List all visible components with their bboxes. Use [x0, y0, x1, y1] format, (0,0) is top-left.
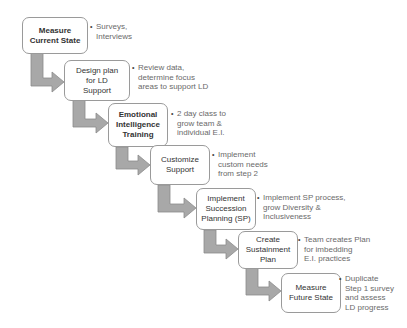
step-label-line: Future State [289, 293, 333, 302]
bullet-icon: • [212, 150, 214, 160]
note-line: Interviews [96, 32, 132, 42]
note-line: LD progress [345, 303, 394, 313]
note-line: from step 2 [218, 169, 268, 179]
bent-arrow-icon [204, 230, 238, 259]
step-measure-future-state: MeasureFuture State [281, 273, 341, 313]
bullet-icon: • [90, 22, 92, 32]
step-label-line: Customize [161, 155, 199, 164]
note-line: Surveys, [96, 22, 132, 32]
note-line: Implement SP process, [263, 193, 346, 203]
step-label-line: Planning (SP) [201, 214, 250, 223]
bullet-icon: • [298, 235, 300, 245]
step-label-line: Plan [260, 255, 276, 264]
note-line: and assess [345, 293, 394, 303]
bent-arrow-icon [73, 100, 108, 133]
process-diagram: MeasureCurrent State • Surveys, Intervie… [0, 0, 407, 328]
note-line: individual E.I. [177, 128, 226, 138]
bullet-icon: • [339, 274, 341, 284]
step-label-line: Implement [207, 194, 244, 203]
step-measure-current-state: MeasureCurrent State [22, 17, 88, 54]
step-label-line: Succession [206, 204, 247, 213]
note-line: custom needs [218, 160, 268, 170]
step-label-line: Intelligence [116, 120, 160, 129]
note-line: Team creates Plan [304, 235, 370, 245]
step-note: • Team creates Plan for imbedding E.I. p… [304, 235, 370, 264]
note-line: Review data, [138, 63, 208, 73]
note-line: areas to support LD [138, 82, 208, 92]
note-line: for imbedding [304, 245, 370, 255]
step-create-sustainment-plan: CreateSustainmentPlan [238, 231, 298, 269]
step-note: • 2 day class to grow team & individual … [177, 109, 226, 138]
step-note: • Implement SP process, grow Diversity &… [263, 193, 346, 222]
step-label-line: for LD [86, 76, 108, 85]
step-label-line: Current State [30, 36, 81, 45]
step-label-line: Emotional [119, 110, 158, 119]
bullet-icon: • [132, 63, 134, 73]
step-note: • Implement custom needs from step 2 [218, 150, 268, 179]
step-note: • Duplicate Step 1 survey and assess LD … [345, 274, 394, 312]
step-label-line: Design plan [76, 66, 118, 75]
note-line: grow Diversity & [263, 203, 346, 213]
note-line: Inclusiveness [263, 212, 346, 222]
step-label-line: Support [83, 86, 111, 95]
note-line: grow team & [177, 119, 226, 129]
bent-arrow-icon [246, 268, 281, 301]
step-note: • Surveys, Interviews [96, 22, 132, 41]
step-label-line: Training [122, 130, 153, 139]
step-implement-succession-planning: ImplementSuccessionPlanning (SP) [196, 188, 256, 230]
step-note: • Review data, determine focus areas to … [138, 63, 208, 92]
step-label-line: Support [166, 165, 194, 174]
step-customize-support: CustomizeSupport [150, 145, 210, 185]
bullet-icon: • [171, 109, 173, 119]
step-design-plan: Design planfor LDSupport [64, 60, 130, 101]
note-line: determine focus [138, 73, 208, 83]
note-line: E.I. practices [304, 254, 370, 264]
note-line: Step 1 survey [345, 284, 394, 294]
bent-arrow-icon [116, 147, 150, 175]
bent-arrow-icon [158, 185, 196, 218]
step-label-line: Sustainment [246, 245, 290, 254]
note-line: Implement [218, 150, 268, 160]
step-label-line: Measure [39, 26, 71, 35]
step-label-line: Measure [295, 283, 326, 292]
step-emotional-intelligence-training: EmotionalIntelligenceTraining [108, 103, 168, 147]
note-line: Duplicate [345, 274, 394, 284]
step-label-line: Create [256, 235, 280, 244]
note-line: 2 day class to [177, 109, 226, 119]
bent-arrow-icon [31, 53, 64, 92]
bullet-icon: • [257, 193, 259, 203]
